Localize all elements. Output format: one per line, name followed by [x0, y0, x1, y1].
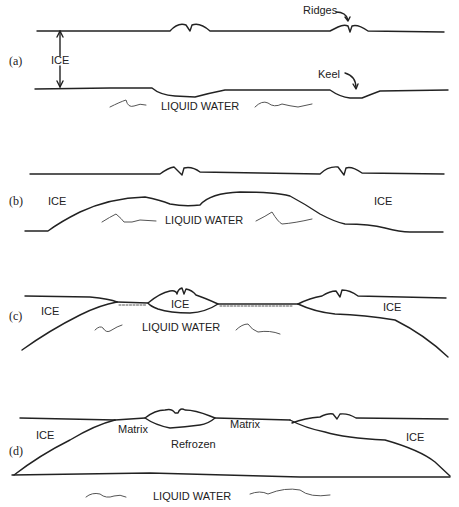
water-squiggle-left: [102, 214, 156, 222]
ice-label-right: ICE: [374, 196, 392, 207]
melt-pond-bubbles: [119, 305, 292, 306]
liquid-water-label: LIQUID WATER: [142, 322, 220, 333]
liquid-water-label: LIQUID WATER: [165, 215, 243, 226]
panel-label-c: (c): [9, 310, 22, 322]
ice-label-left: ICE: [41, 306, 59, 317]
liquid-water-label: LIQUID WATER: [161, 101, 239, 112]
water-squiggle-left: [86, 493, 126, 497]
panel-d-ice-bottom-right: [290, 420, 450, 476]
panel-a-ice-top: [37, 24, 444, 32]
panel-label-d: (d): [9, 445, 23, 457]
matrix-label-right: Matrix: [230, 419, 260, 430]
refrozen-label: Refrozen: [171, 439, 216, 450]
keel-annotation: Keel: [318, 69, 340, 80]
ice-label-left: ICE: [36, 430, 54, 441]
ice-label: ICE: [51, 55, 69, 66]
water-squiggle-right: [255, 102, 312, 107]
panel-d-refrozen-floe: [145, 409, 215, 428]
water-squiggle-right: [250, 489, 330, 496]
panel-c-melt-pond-left: [117, 302, 148, 303]
water-squiggle-right: [256, 212, 312, 224]
water-squiggle-left: [110, 100, 146, 107]
ice-label-right: ICE: [383, 302, 401, 313]
panel-label-b: (b): [9, 195, 23, 207]
ice-label-center: ICE: [171, 299, 189, 310]
panel-d-ice-bottom-left: [14, 420, 115, 475]
panel-d-water-line: [12, 473, 450, 477]
panel-a-lines: [35, 12, 448, 107]
panel-b-ice-top: [30, 167, 444, 175]
water-squiggle-right: [236, 324, 280, 334]
matrix-label-left: Matrix: [118, 424, 148, 435]
ridges-annotation: Ridges: [303, 5, 337, 16]
diagram-lines: [0, 0, 459, 507]
ice-label-left: ICE: [48, 196, 66, 207]
panel-c-ice-top-right: [298, 290, 446, 304]
panel-c-lines: [22, 288, 448, 357]
ice-label-right: ICE: [406, 432, 424, 443]
panel-d-matrix-left: [115, 418, 145, 420]
panel-a-ice-bottom: [35, 88, 448, 98]
panel-c-ice-top-left: [25, 296, 117, 302]
sea-ice-melt-diagram: (a) ICE Ridges Keel LIQUID WATER (b) ICE…: [0, 0, 459, 507]
panel-d-ice-top-left: [20, 418, 115, 420]
panel-c-ice-bottom-right: [298, 304, 448, 357]
panel-d-ice-top-right: [292, 414, 448, 423]
water-squiggle-left: [95, 325, 122, 332]
panel-c-ice-bottom-left: [22, 302, 117, 350]
liquid-water-label: LIQUID WATER: [153, 491, 231, 502]
panel-label-a: (a): [9, 55, 22, 67]
